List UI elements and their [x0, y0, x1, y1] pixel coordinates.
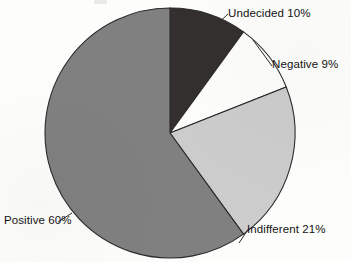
- slice-label-undecided: Undecided 10%: [228, 8, 311, 20]
- slice-label-positive: Positive 60%: [4, 215, 72, 227]
- scan-artifact: [94, 0, 107, 4]
- slice-label-indifferent: Indifferent 21%: [247, 224, 326, 236]
- pie-chart-figure: Undecided 10% Negative 9% Indifferent 21…: [0, 0, 351, 262]
- slice-label-negative: Negative 9%: [272, 59, 338, 71]
